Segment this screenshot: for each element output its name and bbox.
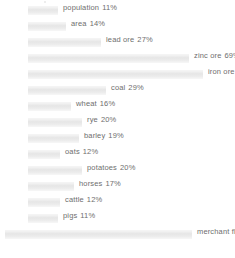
bar-label-value: 12% (87, 195, 102, 204)
bar-track (28, 198, 235, 207)
bar-label-name: merchant fleet (197, 227, 235, 236)
bar-label-value: 17% (105, 179, 120, 188)
bar-label-value: 27% (137, 35, 152, 44)
bar (5, 230, 192, 239)
bar-label: horses17% (79, 178, 121, 190)
bar-label: coal29% (111, 82, 144, 94)
bar (28, 166, 82, 175)
bar-label: lead ore27% (106, 34, 153, 46)
bar-label-name: zinc ore (194, 51, 221, 60)
bar-label-value: 16% (100, 99, 115, 108)
bar-track (28, 182, 235, 191)
bar-label: barley19% (84, 130, 124, 142)
bar (28, 54, 189, 63)
bar-track (28, 214, 235, 223)
bar (28, 22, 66, 31)
bar (28, 86, 106, 95)
bar-track (28, 118, 235, 127)
bar-row: horses17% (0, 180, 235, 196)
bar-row: population11% (0, 4, 235, 20)
bar-label: zinc ore69% (194, 50, 235, 62)
bar-label-name: area (71, 19, 87, 28)
bar-label-value: 19% (108, 131, 123, 140)
bar-label-value: 20% (101, 115, 116, 124)
bar-row: zinc ore69% (0, 52, 235, 68)
bar (28, 102, 71, 111)
bar-track (28, 134, 235, 143)
bar-label-value: 20% (120, 163, 135, 172)
bar-label-name: population (63, 3, 99, 12)
bar-track (28, 6, 235, 15)
bar-label-name: rye (87, 115, 98, 124)
horizontal-bar-chart: population11%area14%lead ore27%zinc ore6… (0, 0, 235, 258)
bar-row: cattle12% (0, 196, 235, 212)
bar (28, 70, 203, 79)
bar (28, 198, 60, 207)
bar-label-name: cattle (65, 195, 84, 204)
bar-track (28, 102, 235, 111)
bar-label-name: lead ore (106, 35, 134, 44)
bar (28, 38, 101, 47)
bar-label: potatoes20% (87, 162, 135, 174)
bar-label-value: 12% (83, 147, 98, 156)
bar-label-name: pigs (63, 211, 77, 220)
bar-label: merchant fleet90% (197, 226, 235, 238)
bar-label: oats12% (65, 146, 98, 158)
top-tick-mark (44, 1, 46, 3)
bar-label-value: 11% (80, 211, 95, 220)
bar-label: pigs11% (63, 210, 95, 222)
bar-row: barley19% (0, 132, 235, 148)
bar-label: wheat16% (76, 98, 115, 110)
bar (28, 134, 79, 143)
bar-label-name: iron ore (208, 67, 235, 76)
bar-label: iron ore75% (208, 66, 235, 78)
bar-label-name: potatoes (87, 163, 117, 172)
bar-label-name: wheat (76, 99, 97, 108)
bar-label-name: oats (65, 147, 80, 156)
bar-label-value: 11% (102, 3, 117, 12)
bar (28, 182, 74, 191)
bar-row: wheat16% (0, 100, 235, 116)
bar-label: area14% (71, 18, 105, 30)
bar-row: coal29% (0, 84, 235, 100)
bar-label: population11% (63, 2, 117, 14)
bar-label-value: 14% (90, 19, 105, 28)
bar-label: rye20% (87, 114, 116, 126)
bar (28, 214, 58, 223)
bar-track (28, 70, 235, 79)
bar-label: cattle12% (65, 194, 102, 206)
bar (28, 6, 58, 15)
bar-label-name: horses (79, 179, 102, 188)
bar-label-name: barley (84, 131, 105, 140)
bar (28, 150, 60, 159)
bar-track (28, 150, 235, 159)
bar-row: merchant fleet90% (0, 228, 235, 244)
bar-label-value: 69% (224, 51, 235, 60)
bar (28, 118, 82, 127)
bar-label-value: 29% (128, 83, 143, 92)
bar-track (28, 22, 235, 31)
bar-label-name: coal (111, 83, 125, 92)
